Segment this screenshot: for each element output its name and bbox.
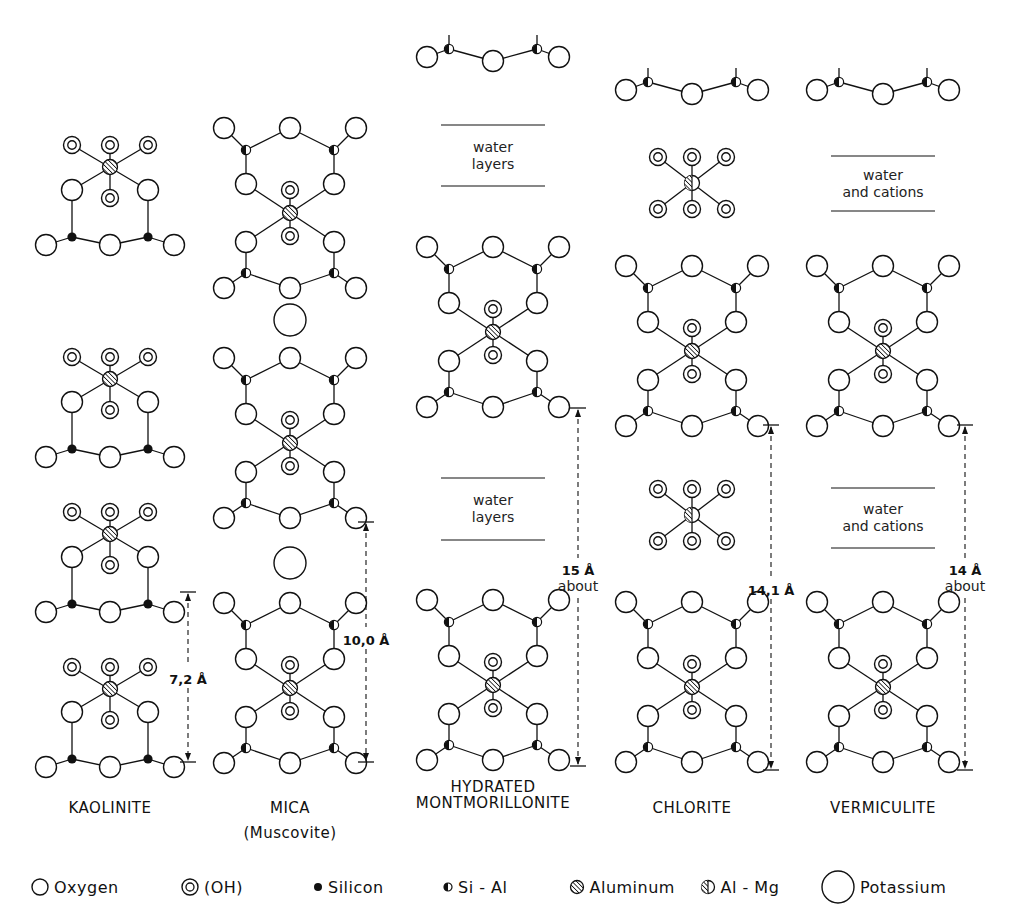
si-al-icon <box>532 264 541 273</box>
svg-text:Oxygen: Oxygen <box>54 878 119 897</box>
oxygen-icon <box>280 508 301 529</box>
dimension-mica: 10,0 Å <box>343 522 390 762</box>
oxygen-icon <box>324 232 345 253</box>
svg-text:MONTMORILLONITE: MONTMORILLONITE <box>416 794 571 812</box>
oxygen-icon <box>917 312 938 333</box>
oxygen-icon <box>829 706 850 727</box>
oxygen-icon <box>324 707 345 728</box>
oxygen-icon <box>483 750 504 771</box>
oxygen-icon <box>138 547 159 568</box>
oxygen-icon <box>236 462 257 483</box>
oxygen-icon <box>527 704 548 725</box>
hydroxyl-icon <box>282 412 299 429</box>
svg-text:Al - Mg: Al - Mg <box>721 878 780 897</box>
hydroxyl-icon <box>650 201 667 218</box>
svg-text:water: water <box>473 139 513 155</box>
dimension-montmorillonite: 15 Åabout <box>558 408 599 766</box>
oxygen-icon <box>439 646 460 667</box>
si-al-icon <box>444 617 453 626</box>
hydroxyl-icon <box>718 201 735 218</box>
oxygen-icon <box>100 602 121 623</box>
oxygen-icon <box>682 416 703 437</box>
oxygen-icon <box>236 404 257 425</box>
al-mg-icon <box>685 508 700 523</box>
si-al-icon <box>532 617 541 626</box>
oxygen-icon <box>483 397 504 418</box>
oxygen-icon <box>917 706 938 727</box>
hydroxyl-icon <box>140 504 157 521</box>
oxygen-icon <box>549 397 570 418</box>
oxygen-icon <box>829 312 850 333</box>
oxygen-icon <box>214 593 235 614</box>
si-al-icon <box>834 77 843 86</box>
svg-text:and cations: and cations <box>842 184 923 200</box>
oxygen-icon <box>62 702 83 723</box>
hydroxyl-icon <box>684 149 701 166</box>
oxygen-icon <box>873 84 894 105</box>
aluminum-icon <box>876 344 891 359</box>
si-al-icon <box>241 375 250 384</box>
hydroxyl-icon <box>182 879 198 895</box>
oxygen-icon <box>324 462 345 483</box>
si-al-icon <box>241 743 250 752</box>
oxygen-icon <box>917 370 938 391</box>
si-al-icon <box>329 145 338 154</box>
hydroxyl-icon <box>485 700 502 717</box>
hydroxyl-icon <box>875 702 892 719</box>
oxygen-icon <box>324 649 345 670</box>
aluminum-icon <box>283 206 298 221</box>
svg-text:layers: layers <box>472 509 514 525</box>
oxygen-icon <box>62 392 83 413</box>
hydroxyl-icon <box>64 504 81 521</box>
si-al-icon <box>329 375 338 384</box>
hydroxyl-icon <box>282 228 299 245</box>
oxygen-icon <box>616 416 637 437</box>
si-al-icon <box>643 619 652 628</box>
aluminum-icon <box>685 344 700 359</box>
si-al-icon <box>731 742 740 751</box>
oxygen-icon <box>939 256 960 277</box>
oxygen-icon <box>236 174 257 195</box>
svg-text:Si - Al: Si - Al <box>458 878 507 897</box>
hydroxyl-icon <box>718 481 735 498</box>
oxygen-icon <box>164 602 185 623</box>
oxygen-icon <box>280 348 301 369</box>
oxygen-icon <box>164 757 185 778</box>
oxygen-icon <box>917 648 938 669</box>
oxygen-icon <box>638 648 659 669</box>
hydroxyl-icon <box>684 366 701 383</box>
hydroxyl-icon <box>140 349 157 366</box>
oxygen-icon <box>726 648 747 669</box>
si-al-icon <box>731 406 740 415</box>
oxygen-icon <box>100 757 121 778</box>
hydroxyl-icon <box>282 703 299 720</box>
aluminum-icon <box>486 325 501 340</box>
oxygen-icon <box>32 879 48 895</box>
oxygen-icon <box>417 47 438 68</box>
oxygen-icon <box>682 256 703 277</box>
silicon-icon <box>143 444 152 453</box>
hydroxyl-icon <box>64 137 81 154</box>
hydroxyl-icon <box>650 481 667 498</box>
oxygen-icon <box>873 416 894 437</box>
oxygen-icon <box>748 256 769 277</box>
hydroxyl-icon <box>650 533 667 550</box>
hydroxyl-icon <box>102 659 119 676</box>
interlayer-montmorillonite-1: waterlayers <box>441 478 545 540</box>
oxygen-icon <box>214 348 235 369</box>
oxygen-icon <box>549 750 570 771</box>
mineral-label-vermiculite: VERMICULITE <box>830 799 936 817</box>
hydroxyl-icon <box>485 347 502 364</box>
hydroxyl-icon <box>718 533 735 550</box>
legend-item-potassium: Potassium <box>822 871 946 903</box>
oxygen-icon <box>527 293 548 314</box>
oxygen-icon <box>100 235 121 256</box>
oxygen-icon <box>807 416 828 437</box>
oxygen-icon <box>549 237 570 258</box>
oxygen-icon <box>873 752 894 773</box>
oxygen-icon <box>527 646 548 667</box>
svg-text:14 Å: 14 Å <box>949 563 982 578</box>
oxygen-icon <box>939 592 960 613</box>
hydroxyl-icon <box>102 504 119 521</box>
si-al-icon <box>643 283 652 292</box>
